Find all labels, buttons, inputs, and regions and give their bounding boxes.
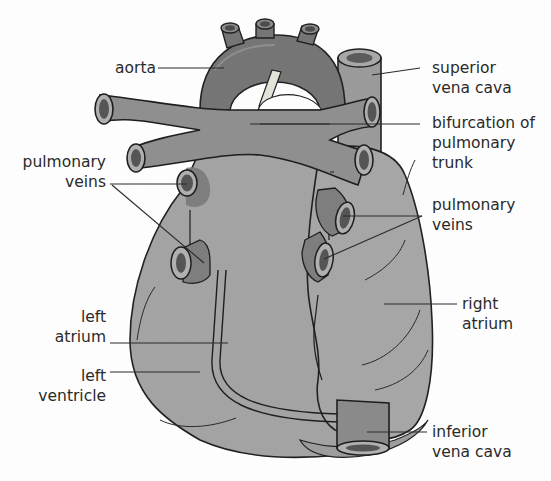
aortic-arch <box>200 19 345 110</box>
label-line: veins <box>432 215 515 235</box>
aortic-branch <box>297 24 319 45</box>
aortic-branch <box>221 23 244 48</box>
label-line: pulmonary <box>10 152 106 172</box>
label-line: vena cava <box>432 442 512 462</box>
label-text: aorta <box>115 59 156 77</box>
label-line: ventricle <box>20 386 106 406</box>
label-line: bifurcation of <box>432 113 535 133</box>
label-line: left <box>30 307 106 327</box>
label-line: right <box>462 294 513 314</box>
label-line: superior <box>432 58 512 78</box>
label-line: inferior <box>432 422 512 442</box>
label-line: veins <box>10 172 106 192</box>
label-aorta: aorta <box>100 58 156 78</box>
label-line: pulmonary <box>432 133 535 153</box>
aortic-branch <box>256 19 274 38</box>
label-pulmonary-veins-right: pulmonary veins <box>432 195 515 235</box>
label-right-atrium: right atrium <box>462 294 513 334</box>
label-left-ventricle: left ventricle <box>20 366 106 406</box>
label-bifurcation-of-pulmonary-trunk: bifurcation of pulmonary trunk <box>432 113 535 173</box>
label-line: vena cava <box>432 78 512 98</box>
label-line: trunk <box>432 153 535 173</box>
inferior-vena-cava <box>337 400 389 455</box>
label-left-atrium: left atrium <box>30 307 106 347</box>
label-line: left <box>20 366 106 386</box>
label-line: atrium <box>462 314 513 334</box>
label-inferior-vena-cava: inferior vena cava <box>432 422 512 462</box>
label-line: atrium <box>30 327 106 347</box>
label-line: pulmonary <box>432 195 515 215</box>
label-superior-vena-cava: superior vena cava <box>432 58 512 98</box>
label-pulmonary-veins-left: pulmonary veins <box>10 152 106 192</box>
